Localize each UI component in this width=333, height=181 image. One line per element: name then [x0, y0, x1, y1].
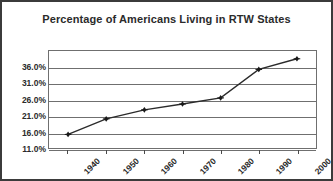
x-tick-mark: [144, 150, 145, 154]
x-tick-label: 1940: [82, 156, 102, 176]
x-tick-label: 1950: [120, 156, 140, 176]
chart-title: Percentage of Americans Living in RTW St…: [2, 13, 331, 25]
x-tick-mark: [183, 150, 184, 154]
plot-area: [48, 50, 317, 149]
x-axis: 1940195019601970198019902000: [48, 150, 317, 180]
y-tick-label: 26.0%: [4, 95, 46, 105]
x-tick-label: 1980: [235, 156, 255, 176]
x-tick-label: 1970: [197, 156, 217, 176]
chart-figure: Percentage of Americans Living in RTW St…: [0, 0, 333, 181]
y-tick-label: 16.0%: [4, 128, 46, 138]
x-tick-mark: [259, 150, 260, 154]
x-tick-label: 2000: [312, 156, 332, 176]
data-series-line: [49, 51, 316, 148]
y-axis: 11.0%16.0%21.0%26.0%31.0%36.0%: [2, 50, 46, 149]
x-tick-label: 1990: [274, 156, 294, 176]
y-tick-label: 36.0%: [4, 62, 46, 72]
x-tick-mark: [106, 150, 107, 154]
x-tick-mark: [221, 150, 222, 154]
x-tick-mark: [67, 150, 68, 154]
y-tick-label: 31.0%: [4, 78, 46, 88]
y-tick-label: 21.0%: [4, 111, 46, 121]
x-tick-mark: [298, 150, 299, 154]
series-polyline: [68, 59, 297, 135]
x-tick-label: 1960: [159, 156, 179, 176]
y-tick-label: 11.0%: [4, 144, 46, 154]
